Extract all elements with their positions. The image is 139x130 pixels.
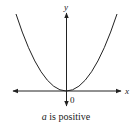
caption: a is positive xyxy=(42,111,91,122)
x-axis-label: x xyxy=(124,86,129,96)
parabola-graph: y x 0 a is positive xyxy=(0,0,139,130)
y-axis-label: y xyxy=(63,2,68,12)
origin-label: 0 xyxy=(70,95,75,105)
caption-text: is positive xyxy=(47,111,91,122)
